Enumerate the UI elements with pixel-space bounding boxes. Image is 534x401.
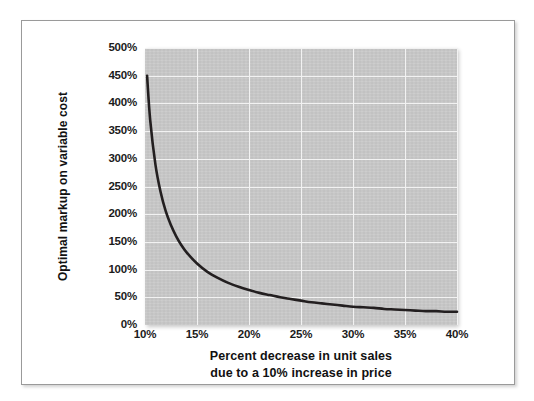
y-tick-150%: 150% [75,236,137,248]
y-tick-0%: 0% [75,319,137,331]
plot-panel [145,48,457,325]
x-tick-40%: 40% [446,329,468,341]
y-axis-title: Optimal markup on variable cost [52,48,74,325]
y-tick-200%: 200% [75,208,137,220]
y-tick-50%: 50% [75,292,137,304]
x-axis-title-line-1: Percent decrease in unit sales [145,348,457,365]
y-tick-100%: 100% [75,264,137,276]
x-tick-15%: 15% [186,329,208,341]
y-axis-tick-labels: 0%50%100%150%200%250%300%350%400%450%500… [75,48,137,325]
x-axis-title: Percent decrease in unit sales due to a … [145,348,457,382]
y-tick-450%: 450% [75,70,137,82]
x-axis-tick-labels: 10%15%20%25%30%35%40% [145,329,457,347]
y-tick-350%: 350% [75,125,137,137]
chart-area: 0%50%100%150%200%250%300%350%400%450%500… [22,21,516,386]
gridline-v-40% [457,48,458,325]
series-line-optimal-markup [145,48,457,325]
y-tick-400%: 400% [75,98,137,110]
figure-outer-frame: 0%50%100%150%200%250%300%350%400%450%500… [21,20,515,385]
y-tick-300%: 300% [75,153,137,165]
x-axis-title-line-2: due to a 10% increase in price [145,365,457,382]
curve-path [147,76,457,312]
figure-root: 0%50%100%150%200%250%300%350%400%450%500… [0,0,534,401]
y-tick-500%: 500% [75,42,137,54]
x-tick-20%: 20% [238,329,260,341]
y-tick-250%: 250% [75,181,137,193]
x-tick-30%: 30% [342,329,364,341]
x-tick-10%: 10% [134,329,156,341]
x-tick-25%: 25% [290,329,312,341]
x-tick-35%: 35% [394,329,416,341]
